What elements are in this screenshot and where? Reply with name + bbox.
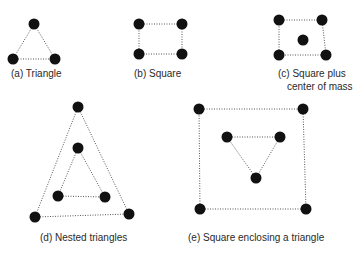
node-d-1 — [30, 212, 41, 223]
edge-e-3 — [199, 109, 200, 209]
node-c-1 — [317, 15, 328, 26]
node-d-5 — [100, 192, 111, 203]
node-a-1 — [8, 54, 19, 65]
edge-d-4 — [58, 196, 105, 197]
node-e-1 — [298, 104, 309, 115]
caption-d: (d) Nested triangles — [40, 232, 127, 243]
caption-b: (b) Square — [134, 68, 182, 79]
panel-square-plus-center — [274, 15, 332, 61]
caption-c-line1: (c) Square plus — [278, 68, 346, 79]
node-c-2 — [274, 50, 285, 61]
node-e-6 — [251, 173, 262, 184]
node-c-4 — [298, 35, 309, 46]
panel-nested-triangles — [30, 102, 135, 223]
node-e-4 — [222, 132, 233, 143]
diagram-canvas: (a) Triangle (b) Square (c) Square plus … — [0, 0, 362, 253]
node-d-0 — [73, 102, 84, 113]
node-b-3 — [177, 49, 188, 60]
edge-d-3 — [58, 148, 78, 196]
node-a-2 — [50, 54, 61, 65]
caption-c-line2: center of mass — [287, 81, 353, 92]
node-c-3 — [321, 50, 332, 61]
node-b-0 — [134, 19, 145, 30]
node-c-0 — [274, 15, 285, 26]
panel-square-enclosing-triangle — [194, 104, 312, 215]
edge-e-5 — [256, 137, 280, 178]
edge-e-6 — [227, 137, 256, 178]
node-d-3 — [73, 143, 84, 154]
node-e-3 — [301, 204, 312, 215]
node-e-2 — [195, 204, 206, 215]
node-a-0 — [29, 19, 40, 30]
node-d-4 — [53, 191, 64, 202]
node-e-0 — [194, 104, 205, 115]
edge-a-2 — [34, 24, 55, 59]
edge-d-1 — [35, 214, 129, 217]
edge-a-0 — [13, 24, 34, 59]
panel-triangle — [8, 19, 61, 65]
caption-e: (e) Square enclosing a triangle — [188, 232, 325, 243]
node-b-1 — [177, 19, 188, 30]
node-e-5 — [275, 132, 286, 143]
node-b-2 — [134, 49, 145, 60]
edge-e-1 — [303, 109, 306, 209]
node-d-2 — [124, 209, 135, 220]
panel-square — [134, 19, 188, 60]
caption-a: (a) Triangle — [11, 68, 62, 79]
